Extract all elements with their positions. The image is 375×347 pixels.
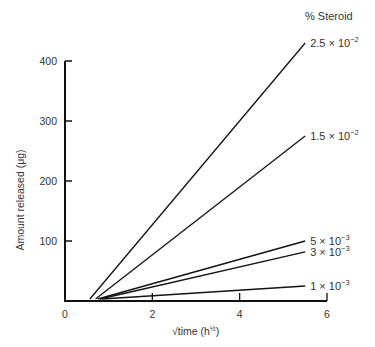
legend-title: % Steroid [305,10,353,22]
axes: 1002003004000246 [39,55,330,320]
series-lines [90,43,305,299]
release-chart: 1002003004000246 2.5 × 10−21.5 × 10−25 ×… [0,0,375,347]
series-label: 1 × 10−3 [310,278,349,292]
series-line [102,286,305,299]
y-tick-label: 100 [39,235,57,247]
series-labels: 2.5 × 10−21.5 × 10−25 × 10−33 × 10−31 × … [310,35,359,292]
x-axis-label-text: √time (h½) [172,325,219,337]
series-label: 2.5 × 10−2 [310,35,359,49]
x-tick-label: 4 [237,308,243,320]
series-label: 3 × 10−3 [310,244,349,258]
series-line [96,136,306,299]
series-line [98,241,305,299]
series-label: 1.5 × 10−2 [310,128,359,142]
series-line [90,43,305,299]
x-axis-label: √time (h½) [172,325,219,337]
y-tick-label: 300 [39,115,57,127]
x-tick-label: 2 [149,308,155,320]
y-tick-label: 200 [39,175,57,187]
x-tick-label: 0 [62,308,68,320]
x-tick-label: 6 [324,308,330,320]
y-axis-label: Amount released (μg) [14,149,26,250]
y-tick-label: 400 [39,55,57,67]
chart-svg: 1002003004000246 2.5 × 10−21.5 × 10−25 ×… [0,0,375,347]
